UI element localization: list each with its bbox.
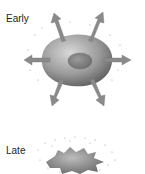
cell-diagram <box>0 0 145 174</box>
nucleus-early <box>68 53 92 69</box>
cell-late <box>46 147 104 174</box>
